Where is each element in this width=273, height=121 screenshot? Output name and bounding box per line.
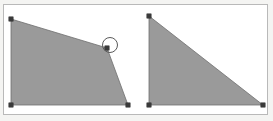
vertex-highlight-circle-icon: [103, 38, 118, 53]
vertex-handle-right-bottom-right[interactable]: [261, 103, 265, 107]
shape-right-triangle[interactable]: [149, 16, 263, 105]
vertex-handle-left-top-left[interactable]: [9, 17, 13, 21]
vertex-handle-right-bottom-left[interactable]: [147, 103, 151, 107]
vertex-handle-left-bottom-right[interactable]: [126, 103, 130, 107]
vertex-handle-left-upper-right[interactable]: [105, 46, 109, 50]
shape-left-quadrilateral[interactable]: [11, 19, 128, 105]
vertex-handle-right-apex[interactable]: [147, 14, 151, 18]
drawing-canvas: [0, 0, 273, 121]
figure-root: [0, 0, 273, 121]
vertex-handle-left-bottom-left[interactable]: [9, 103, 13, 107]
